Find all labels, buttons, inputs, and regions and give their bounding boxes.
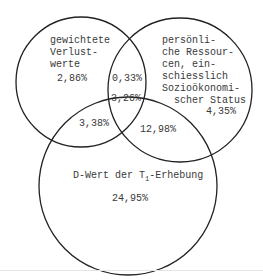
value-abc: 3,26% bbox=[111, 93, 141, 105]
value-bc: 12,98% bbox=[140, 124, 176, 136]
label-set-c-suffix: -Erhebung bbox=[149, 170, 203, 181]
value-a-only: 2,86% bbox=[57, 73, 87, 85]
bottom-rule bbox=[0, 270, 263, 271]
value-ac: 3,38% bbox=[79, 118, 109, 130]
label-set-c-prefix: D-Wert der T bbox=[73, 170, 145, 181]
value-b-only: 4,35% bbox=[206, 106, 236, 118]
label-set-a: gewichtete Verlust- werte bbox=[50, 35, 110, 71]
label-set-c: D-Wert der T1-Erhebung bbox=[73, 170, 203, 185]
label-set-b: persönli- che Ressour- cen, ein- schiess… bbox=[162, 35, 246, 107]
value-ab: 0,33% bbox=[112, 73, 142, 85]
circle-d-wert bbox=[39, 97, 217, 275]
value-c-only: 24,95% bbox=[112, 193, 148, 205]
